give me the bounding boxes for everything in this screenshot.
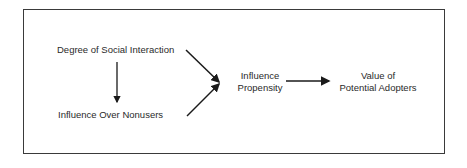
arrow-nonusers-to-propensity xyxy=(187,84,219,116)
arrow-social-to-propensity xyxy=(186,50,219,82)
diagram-arrows xyxy=(0,0,467,168)
